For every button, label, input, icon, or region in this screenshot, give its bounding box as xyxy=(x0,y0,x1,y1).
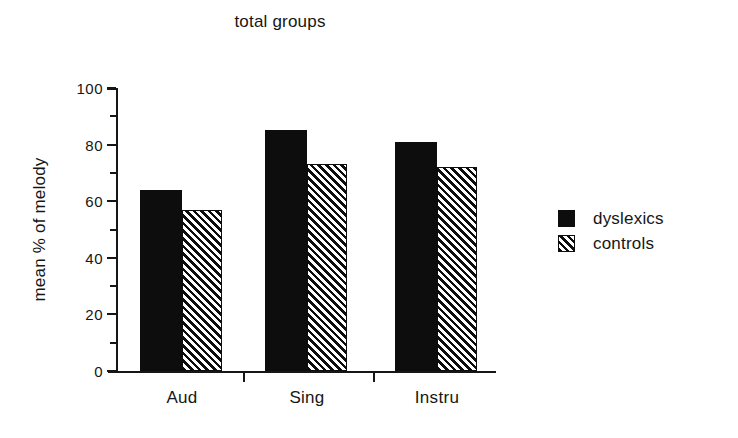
y-axis-tick-minor xyxy=(110,115,116,117)
x-axis-label-sing: Sing xyxy=(289,388,324,408)
bar-sing-dyslexics xyxy=(265,130,307,371)
legend-item-dyslexics[interactable]: dyslexics xyxy=(558,206,664,231)
legend-swatch-solid-icon xyxy=(558,210,575,227)
bar-instru-controls xyxy=(437,167,477,371)
bar-aud-controls xyxy=(182,210,222,371)
y-axis-tick-major xyxy=(107,313,116,315)
x-axis-separator-tick xyxy=(373,373,375,382)
y-axis-title: mean % of melody xyxy=(28,88,52,371)
y-axis-tick-label: 40 xyxy=(85,249,103,266)
legend-swatch-hatched-icon xyxy=(558,235,575,252)
x-axis-line xyxy=(108,371,496,373)
bar-sing-controls xyxy=(307,164,347,371)
y-axis-tick-minor xyxy=(110,229,116,231)
chart-title: total groups xyxy=(0,12,560,32)
legend-item-controls[interactable]: controls xyxy=(558,231,664,256)
y-axis-tick-major xyxy=(107,257,116,259)
x-axis-separator-tick xyxy=(243,373,245,382)
x-axis-label-instru: Instru xyxy=(415,388,459,408)
bar-aud-dyslexics xyxy=(140,190,182,371)
legend-label: controls xyxy=(593,234,654,254)
bar-instru-dyslexics xyxy=(395,142,437,371)
y-axis-tick-major xyxy=(107,144,116,146)
y-axis-line xyxy=(116,88,118,372)
y-axis-tick-label: 0 xyxy=(94,363,103,380)
plot-area: 020406080100 AudSingInstru xyxy=(116,88,496,371)
y-axis-tick-label: 100 xyxy=(76,80,103,97)
y-axis-tick-label: 20 xyxy=(85,306,103,323)
y-axis-tick-minor xyxy=(110,285,116,287)
y-axis-tick-label: 80 xyxy=(85,136,103,153)
legend: dyslexics controls xyxy=(558,206,664,256)
legend-label: dyslexics xyxy=(593,209,664,229)
y-axis-tick-minor xyxy=(110,342,116,344)
x-axis-label-aud: Aud xyxy=(166,388,197,408)
y-axis-tick-major xyxy=(107,200,116,202)
y-axis-tick-minor xyxy=(110,172,116,174)
y-axis-tick-label: 60 xyxy=(85,193,103,210)
y-axis-tick-major xyxy=(107,370,116,372)
y-axis-tick-major xyxy=(107,87,116,89)
